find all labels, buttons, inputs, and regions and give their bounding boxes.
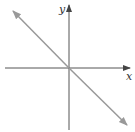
y-axis-label: y (58, 3, 66, 16)
coordinate-plane: y x (0, 0, 135, 132)
x-axis-label: x (126, 70, 133, 83)
